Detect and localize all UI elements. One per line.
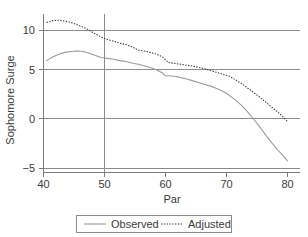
y-tick-label-10: 10 bbox=[23, 24, 35, 36]
series-line-adjusted bbox=[47, 20, 288, 122]
legend-label-adjusted: Adjusted bbox=[188, 218, 231, 230]
x-tick-labels: 40 50 60 70 80 bbox=[37, 178, 293, 190]
x-tick-label-80: 80 bbox=[281, 178, 293, 190]
x-tick-marks bbox=[44, 173, 288, 177]
gridlines bbox=[43, 14, 300, 172]
legend-label-observed: Observed bbox=[111, 218, 159, 230]
y-tick-label-0: 0 bbox=[29, 113, 35, 125]
y-tick-label-5: 5 bbox=[29, 64, 35, 76]
y-axis-title: Sophomore Surge bbox=[4, 55, 16, 144]
chart-figure: 10 5 0 −5 40 50 60 70 80 Par Sophomore S… bbox=[0, 0, 308, 237]
x-tick-label-40: 40 bbox=[37, 178, 49, 190]
axes bbox=[43, 14, 300, 173]
y-tick-marks bbox=[39, 30, 43, 168]
y-tick-labels: 10 5 0 −5 bbox=[22, 24, 35, 174]
x-tick-label-60: 60 bbox=[159, 178, 171, 190]
x-tick-label-50: 50 bbox=[98, 178, 110, 190]
x-tick-label-70: 70 bbox=[220, 178, 232, 190]
series-line-observed bbox=[47, 51, 288, 161]
x-axis-title: Par bbox=[163, 193, 180, 205]
chart-legend: Observed Adjusted bbox=[77, 216, 232, 233]
line-chart: 10 5 0 −5 40 50 60 70 80 Par Sophomore S… bbox=[0, 0, 308, 237]
y-tick-label-minus5: −5 bbox=[22, 162, 35, 174]
